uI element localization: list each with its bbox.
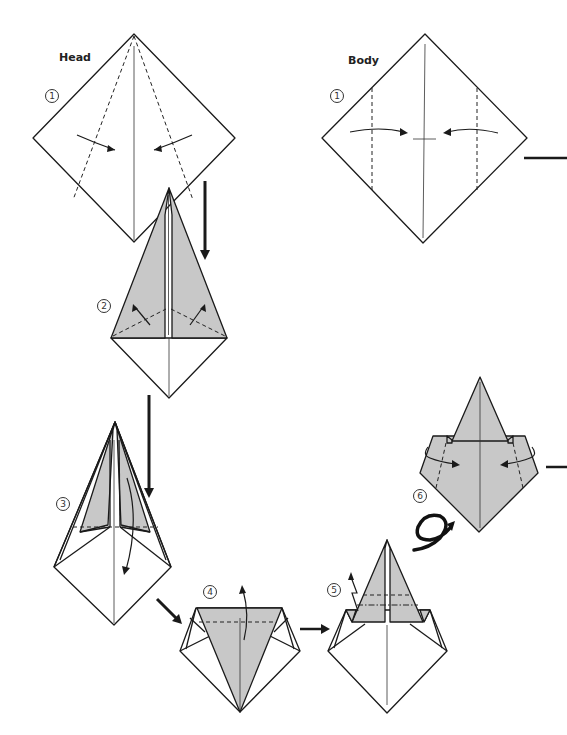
diagram-drawing [0, 0, 567, 735]
head-step-3 [54, 422, 171, 625]
head-step-4 [180, 585, 300, 712]
head-step-6 [420, 377, 538, 532]
origami-diagram: Head Body 1 1 2 3 4 5 6 [0, 0, 567, 735]
turn-over-icon [414, 515, 455, 550]
step-marker-4: 4 [203, 585, 217, 599]
step-marker-6: 6 [413, 489, 427, 503]
step-marker-3: 3 [56, 497, 70, 511]
body-label: Body [348, 54, 379, 67]
head-label: Head [59, 51, 91, 64]
step-marker-body-1: 1 [330, 89, 344, 103]
head-step-5 [328, 540, 447, 713]
step-marker-5: 5 [327, 583, 341, 597]
sequence-arrow-icon [157, 599, 176, 618]
step-marker-head-1: 1 [45, 89, 59, 103]
step-marker-2: 2 [97, 299, 111, 313]
pleat-arrow-icon [351, 577, 358, 611]
